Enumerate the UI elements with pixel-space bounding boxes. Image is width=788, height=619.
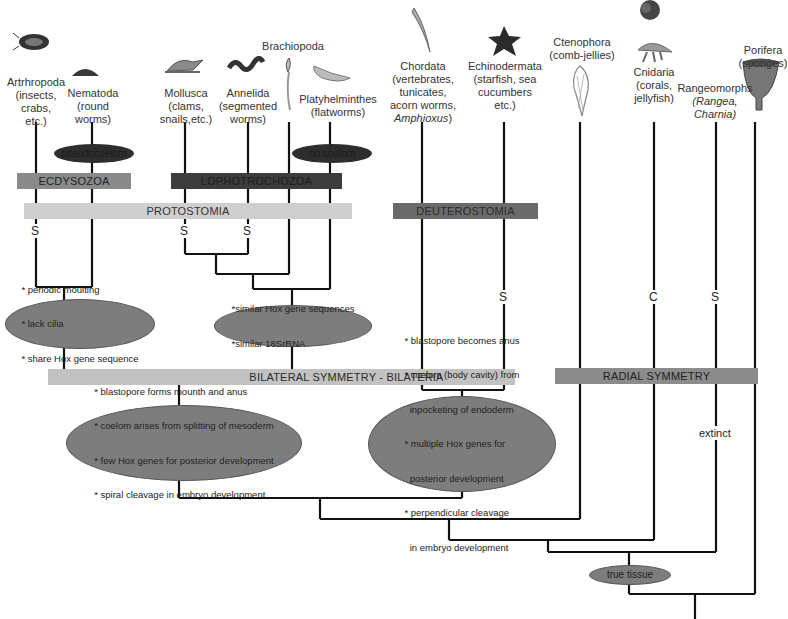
taxon-porifera: Porifera (sponges) — [738, 44, 788, 70]
symmetry-marker-c: C — [649, 290, 658, 304]
taxon-rangeomorphs: Rangeomorphs (Rangea, Charnia) — [677, 82, 753, 121]
deuterostomia-bar: DEUTEROSTOMIA — [393, 203, 538, 219]
taxon-platyhelminthes: Platyhelminthes (flatworms) — [294, 93, 382, 119]
starfish-icon — [488, 26, 521, 56]
taxon-ctenophora: Ctenophora (comb-jellies) — [547, 36, 617, 62]
deuterostome-traits-oval: * blastopore becomes anus * coelom (body… — [368, 396, 556, 492]
lophotrochozoa-traits-oval: *similar Hox gene sequences *similar 18S… — [214, 305, 372, 347]
snail-icon — [165, 60, 203, 72]
taxon-name: Artrhropoda — [6, 76, 66, 89]
no-coelom-oval: no coelom — [292, 144, 372, 163]
beetle-icon — [13, 33, 49, 50]
protostomia-bar: PROTOSTOMIA — [24, 203, 352, 219]
taxon-cnidaria: Cnidaria (corals, jellyfish) — [628, 66, 680, 105]
taxon-chordata: Chordata (vertebrates, tunicates, acorn … — [380, 60, 466, 125]
comb-jelly-icon — [574, 66, 589, 116]
symmetry-marker-s: S — [243, 224, 251, 238]
ecdysozoa-bar: ECDYSOZOA — [17, 173, 131, 189]
brachiopod-icon — [286, 58, 290, 110]
extinct-label: extinct — [699, 426, 731, 440]
pseudocoelom-oval: pseudocoelom — [54, 144, 134, 163]
roundworm-icon — [72, 69, 99, 76]
symmetry-marker-s: S — [31, 224, 39, 238]
protostome-traits-oval: * blastopore forms mounth and anus * coe… — [66, 405, 302, 481]
jellyfish-icon — [638, 43, 672, 62]
taxon-echinodermata: Echinodermata (starfish, sea cucumbers e… — [466, 60, 544, 112]
symmetry-marker-s: S — [180, 224, 188, 238]
taxon-arthropoda: Artrhropoda (insects, crabs, etc.) — [6, 76, 66, 128]
radial-symmetry-bar: RADIAL SYMMETRY — [555, 368, 758, 384]
taxon-annelida: Annelida (segmented worms) — [216, 87, 280, 126]
taxon-brachiopoda: Brachiopoda — [258, 40, 328, 53]
symmetry-marker-s: S — [711, 290, 719, 304]
symmetry-marker-s: S — [499, 290, 507, 304]
segmented-worm-icon — [229, 58, 263, 69]
lancelet-icon — [412, 8, 430, 52]
lophotrochozoa-bar: LOPHOTROCHOZOA — [171, 173, 342, 189]
ecdysozoa-traits-oval: * periodic moulting * lack cilia * share… — [5, 299, 155, 349]
coral-icon — [640, 0, 660, 20]
flatworm-icon — [314, 66, 350, 81]
taxon-mollusca: Mollusca (clams, snails,etc.) — [155, 87, 217, 126]
taxon-nematoda: Nematoda (round worms) — [64, 87, 122, 126]
true-tissue-oval: true tissue — [589, 565, 671, 585]
